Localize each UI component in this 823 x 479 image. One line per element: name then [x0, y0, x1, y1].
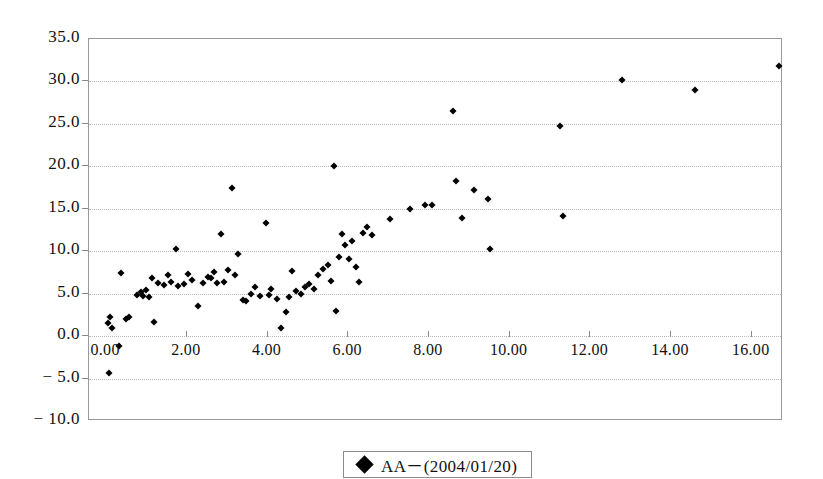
data-point	[775, 63, 782, 70]
data-point	[560, 212, 567, 219]
x-axis-tick-label: 10.00	[490, 341, 528, 359]
x-axis-tick-label: 14.00	[651, 341, 689, 359]
data-point	[328, 277, 335, 284]
x-axis-tick-label: 6.00	[333, 341, 362, 359]
data-point	[311, 285, 318, 292]
data-point	[315, 271, 322, 278]
data-point	[459, 215, 466, 222]
data-point	[339, 231, 346, 238]
data-point	[188, 277, 195, 284]
x-axis-tick-mark	[509, 331, 510, 337]
y-axis-tick-label: 0.0	[2, 324, 80, 344]
data-point	[336, 254, 343, 261]
data-point	[359, 229, 366, 236]
x-axis-tick-label: 12.00	[571, 341, 609, 359]
data-point	[484, 195, 491, 202]
data-point	[346, 255, 353, 262]
y-axis-tick-label: 30.0	[2, 69, 80, 89]
data-point	[453, 177, 460, 184]
x-axis-tick-mark	[347, 331, 348, 337]
data-point	[243, 298, 250, 305]
data-point	[691, 86, 698, 93]
gridline	[89, 81, 781, 82]
y-axis-tick-label: 20.0	[2, 154, 80, 174]
data-point	[106, 370, 113, 377]
gridline	[89, 251, 781, 252]
data-point	[232, 271, 239, 278]
gridline	[89, 124, 781, 125]
legend: AA－(2004/01/20)	[343, 451, 532, 478]
data-point	[386, 215, 393, 222]
y-axis-tick-label: − 10.0	[2, 409, 80, 429]
x-axis-tick-mark	[186, 331, 187, 337]
x-axis-tick-label: 0.00	[91, 341, 120, 359]
gridline	[89, 209, 781, 210]
data-point	[151, 318, 158, 325]
data-point	[109, 325, 116, 332]
x-axis-tick-mark	[428, 331, 429, 337]
data-point	[297, 290, 304, 297]
data-point	[449, 108, 456, 115]
y-axis-tick-label: − 5.0	[2, 367, 80, 387]
data-point	[248, 290, 255, 297]
data-point	[288, 267, 295, 274]
data-point	[262, 220, 269, 227]
data-point	[406, 205, 413, 212]
data-point	[273, 295, 280, 302]
legend-label: AA－(2004/01/20)	[381, 452, 517, 477]
data-point	[265, 292, 272, 299]
data-point	[218, 231, 225, 238]
gridline	[89, 379, 781, 380]
y-axis-tick-label: 35.0	[2, 27, 80, 47]
x-axis-tick-mark	[751, 331, 752, 337]
data-point	[369, 232, 376, 239]
data-point	[356, 278, 363, 285]
x-axis-tick-label: 16.00	[732, 341, 770, 359]
data-point	[282, 309, 289, 316]
data-point	[148, 274, 155, 281]
x-axis-tick-label: 4.00	[252, 341, 281, 359]
data-point	[180, 281, 187, 288]
data-point	[199, 279, 206, 286]
x-axis-tick-mark	[670, 331, 671, 337]
data-point	[118, 270, 125, 277]
x-axis-tick-mark	[267, 331, 268, 337]
data-point	[471, 187, 478, 194]
data-point	[221, 278, 228, 285]
y-axis-tick-label: 25.0	[2, 112, 80, 132]
data-point	[194, 303, 201, 310]
diamond-marker-icon	[355, 455, 373, 473]
data-point	[349, 237, 356, 244]
data-point	[225, 266, 232, 273]
data-point	[229, 184, 236, 191]
y-axis-tick-label: 10.0	[2, 239, 80, 259]
data-point	[331, 163, 338, 170]
x-axis-tick-label: 2.00	[171, 341, 200, 359]
data-point	[353, 263, 360, 270]
data-point	[160, 282, 167, 289]
gridline	[89, 166, 781, 167]
data-point	[277, 325, 284, 332]
gridline	[89, 294, 781, 295]
y-axis-tick-label: 15.0	[2, 197, 80, 217]
scatter-chart: 35.030.025.020.015.010.05.00.0− 5.0− 10.…	[0, 0, 823, 479]
x-axis-tick-label: 8.00	[413, 341, 442, 359]
gridline	[89, 336, 781, 337]
data-point	[167, 278, 174, 285]
data-point	[342, 242, 349, 249]
x-axis-tick-mark	[589, 331, 590, 337]
y-axis-tick-label: 5.0	[2, 282, 80, 302]
plot-area: 0.002.004.006.008.0010.0012.0014.0016.00	[88, 38, 782, 420]
data-point	[252, 283, 259, 290]
data-point	[332, 308, 339, 315]
